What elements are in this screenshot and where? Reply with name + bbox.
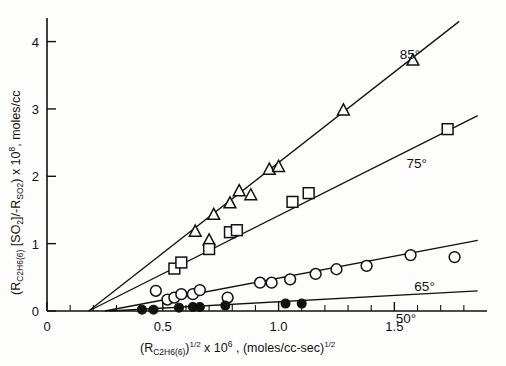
data-point xyxy=(224,197,236,208)
series-labels: 85°75°65°50° xyxy=(396,47,435,326)
y-tick-label: 2 xyxy=(32,169,39,184)
x-tick-label: 0.5 xyxy=(154,319,172,334)
figure-container: 01234 00.51.01.5 85°75°65°50° (RC2H6(6) … xyxy=(0,0,506,366)
fit-line-85 xyxy=(89,21,460,311)
data-point xyxy=(195,303,204,312)
y-axis-title: (RC2H6(6) [SO2]/-RSO2) x 108, moles/cc xyxy=(7,90,25,295)
y-title-bracket-close: ]/-R xyxy=(9,200,23,220)
data-point xyxy=(255,277,266,288)
series-label-85: 85° xyxy=(400,47,420,62)
y-tick-label: 4 xyxy=(32,35,39,50)
y-title-rso2-sub: SO xyxy=(15,187,25,200)
y-title-close: ) x 10 xyxy=(9,151,23,182)
data-point xyxy=(245,189,257,200)
data-point xyxy=(176,289,187,300)
x-tick-label: 1.0 xyxy=(270,319,288,334)
x-title-times: x 10 xyxy=(201,341,228,355)
data-point xyxy=(449,252,460,263)
data-point xyxy=(221,301,230,310)
data-point xyxy=(310,269,321,280)
data-point xyxy=(149,305,158,314)
data-point xyxy=(405,250,416,261)
y-title-sub5: (6) xyxy=(15,249,25,260)
series-label-50: 50° xyxy=(396,311,416,326)
chart-svg: 01234 00.51.01.5 85°75°65°50° (RC2H6(6) … xyxy=(0,0,506,366)
data-point xyxy=(303,188,314,199)
data-point xyxy=(281,299,290,308)
data-point xyxy=(150,285,161,296)
data-point xyxy=(176,257,187,268)
series-data-points xyxy=(138,54,460,314)
data-point xyxy=(231,225,242,236)
y-title-tail: , moles/cc xyxy=(9,90,23,146)
series-label-65: 65° xyxy=(414,279,434,294)
x-title-half2: 1/2 xyxy=(324,340,336,349)
x-title-sub5: (6) xyxy=(175,347,186,357)
data-point xyxy=(266,277,277,288)
y-axis-ticks xyxy=(47,42,56,311)
y-tick-label: 3 xyxy=(32,102,39,117)
data-point xyxy=(287,196,298,207)
x-title-comma: , (moles/cc-sec) xyxy=(232,341,324,355)
series-label-75: 75° xyxy=(406,156,426,171)
x-title-half1: 1/2 xyxy=(190,340,202,349)
data-point xyxy=(297,299,306,308)
data-point xyxy=(204,244,215,255)
data-point xyxy=(285,274,296,285)
series-65 xyxy=(150,250,460,305)
data-point xyxy=(138,305,147,314)
x-axis-title: (RC2H6(6))1/2 x 106 , (moles/cc-sec)1/2 xyxy=(140,339,336,357)
x-axis-tick-labels: 00.51.01.5 xyxy=(43,319,403,334)
data-point xyxy=(194,285,205,296)
y-tick-label: 1 xyxy=(32,237,39,252)
y-title-bracket-open: [SO xyxy=(9,224,23,249)
y-tick-label: 0 xyxy=(32,304,39,319)
data-point xyxy=(175,303,184,312)
data-point xyxy=(361,260,372,271)
x-title-open: (R xyxy=(140,341,153,355)
x-axis-title-text: (RC2H6(6))1/2 x 106 , (moles/cc-sec)1/2 xyxy=(140,339,336,357)
y-axis-title-text: (RC2H6(6) [SO2]/-RSO2) x 108, moles/cc xyxy=(7,90,25,295)
data-point xyxy=(442,124,453,135)
x-tick-label: 0 xyxy=(43,319,50,334)
y-axis-tick-labels: 01234 xyxy=(32,35,39,319)
series-85 xyxy=(189,54,418,245)
y-title-open: (R xyxy=(9,282,23,295)
data-point xyxy=(331,264,342,275)
